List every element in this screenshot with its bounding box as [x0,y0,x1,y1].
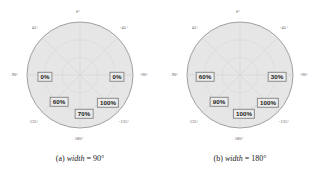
caption-value: 180° [251,154,266,163]
caption-value: 90° [93,154,104,163]
annotation-value: 90% [210,97,229,107]
caption-tag: (b) [214,154,223,163]
tick-label-neg45: -45° [280,26,288,30]
caption-equals: = [86,154,91,163]
caption-tag: (a) [56,154,65,163]
annotation-value: 30% [268,72,287,82]
polar-disk-b [160,0,320,150]
tick-label-180: 180° [235,137,244,141]
polar-plot-b: 0° 45° -45° 90° -90° 135° -135° 180° 60%… [160,0,320,150]
tick-label-0: 0° [236,10,240,14]
figure-two-panel-polar: 0° 45° -45° 90° -90° 135° -135° 180° 0% … [0,0,320,179]
annotation-value: 100% [97,98,119,108]
tick-label-135: 135° [30,120,39,124]
tick-label-135: 135° [190,120,199,124]
tick-label-180: 180° [75,137,84,141]
tick-label-neg90: -90° [140,73,148,77]
polar-plot-a: 0° 45° -45° 90° -90° 135° -135° 180° 0% … [0,0,160,150]
tick-label-neg135: -135° [119,120,129,124]
tick-label-neg135: -135° [279,120,289,124]
tick-label-90: 90° [172,73,178,77]
annotation-value: 100% [233,109,255,119]
annotation-value: 100% [257,98,279,108]
tick-label-45: 45° [32,26,38,30]
panel-b: 0° 45° -45° 90° -90° 135° -135° 180° 60%… [160,0,320,179]
tick-label-0: 0° [76,10,80,14]
tick-label-neg45: -45° [120,26,128,30]
tick-label-45: 45° [192,26,198,30]
caption-variable: width [225,154,243,163]
panel-a: 0° 45° -45° 90° -90° 135° -135° 180° 0% … [0,0,160,179]
annotation-value: 60% [196,72,215,82]
tick-label-90: 90° [12,73,18,77]
annotation-value: 70% [75,109,94,119]
tick-label-neg90: -90° [300,73,308,77]
annotation-value: 0% [37,72,52,82]
caption-equals: = [245,154,250,163]
caption-variable: width [67,154,85,163]
annotation-value: 0% [109,72,124,82]
annotation-value: 60% [50,97,69,107]
panel-caption-a: (a) width = 90° [0,155,160,164]
panel-caption-b: (b) width = 180° [160,155,320,164]
polar-disk-a [0,0,160,150]
